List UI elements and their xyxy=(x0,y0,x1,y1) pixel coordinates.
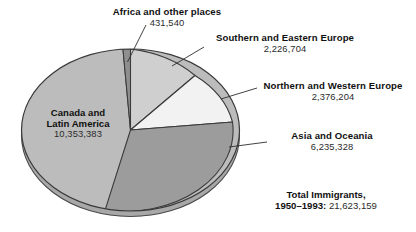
slice-label-canada-latin-america-value: 10,353,383 xyxy=(26,129,130,140)
slice-label-northern-western-europe: Northern and Western Europe 2,376,204 xyxy=(252,81,414,102)
slice-label-southern-eastern-europe: Southern and Eastern Europe 2,226,704 xyxy=(196,33,374,54)
slice-label-northern-western-europe-value: 2,376,204 xyxy=(252,92,414,103)
total-immigrants-block: Total Immigrants, 1950–1993: 21,623,159 xyxy=(240,190,412,211)
slice-label-africa-value: 431,540 xyxy=(97,18,237,29)
total-immigrants-detail: 1950–1993: 21,623,159 xyxy=(240,201,412,212)
slice-label-asia-oceania: Asia and Oceania 6,235,328 xyxy=(262,131,402,152)
slice-label-asia-oceania-value: 6,235,328 xyxy=(262,142,402,153)
slice-label-southern-eastern-europe-value: 2,226,704 xyxy=(196,44,374,55)
total-immigrants-value: 21,623,159 xyxy=(329,200,377,211)
slice-label-canada-latin-america: Canada and Latin America 10,353,383 xyxy=(26,108,130,140)
slice-label-africa: Africa and other places 431,540 xyxy=(97,7,237,28)
pie-chart-figure: Africa and other places 431,540 Southern… xyxy=(0,0,416,232)
total-immigrants-years: 1950–1993: xyxy=(275,200,326,211)
